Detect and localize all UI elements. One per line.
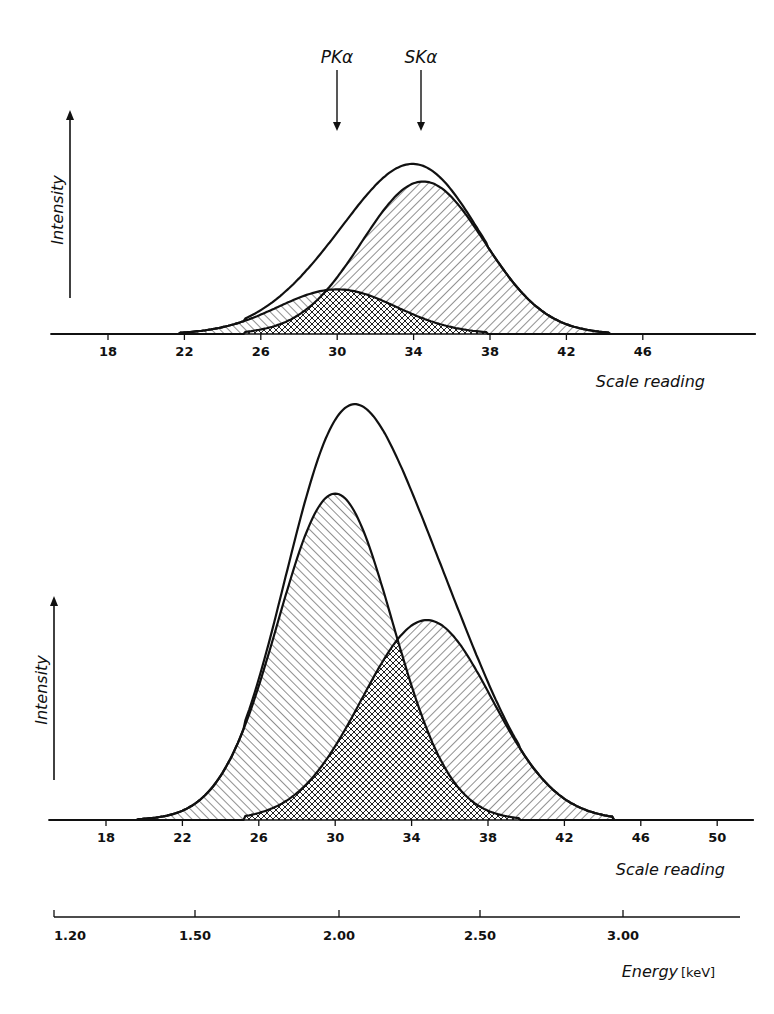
top-y-label: Intensity (48, 175, 67, 245)
tick-label: 26 (250, 830, 268, 845)
tick-label: 2.00 (323, 928, 355, 943)
tick-label: 26 (252, 344, 270, 359)
arrow-up-icon (50, 596, 58, 606)
tick-label: 18 (99, 344, 117, 359)
tick-label: 42 (557, 344, 575, 359)
top-x-ticks: 1822263034384246 (99, 334, 652, 359)
tick-label: 50 (708, 830, 726, 845)
tick-label: 1.20 (54, 928, 86, 943)
tick-label: 46 (632, 830, 650, 845)
tick-label: 30 (328, 344, 346, 359)
tick-label: 30 (326, 830, 344, 845)
tick-label: 38 (479, 830, 497, 845)
tick-label: 1.50 (179, 928, 211, 943)
bottom-chart: 182226303438424650 Intensity Scale readi… (32, 404, 754, 879)
tick-label: 46 (634, 344, 652, 359)
tick-label: 22 (173, 830, 191, 845)
energy-unit: [keV] (681, 965, 715, 980)
marker-pka: PKα (321, 47, 354, 131)
arrow-head-icon (333, 122, 341, 131)
top-x-label: Scale reading (596, 372, 705, 391)
energy-axis: 1.201.502.002.503.00 Energy [keV] (54, 910, 740, 981)
energy-label: Energy (622, 962, 679, 981)
arrow-head-icon (417, 122, 425, 131)
bottom-y-label: Intensity (32, 655, 51, 725)
tick-label: 18 (97, 830, 115, 845)
arrow-up-icon (66, 110, 74, 120)
marker-ska-label: SKα (404, 47, 437, 67)
marker-pka-label: PKα (321, 47, 354, 67)
marker-ska: SKα (404, 47, 437, 131)
tick-label: 3.00 (607, 928, 639, 943)
bottom-x-ticks: 182226303438424650 (97, 820, 726, 845)
tick-label: 22 (175, 344, 193, 359)
overlap-area (49, 641, 754, 820)
tick-label: 34 (405, 344, 423, 359)
tick-label: 42 (555, 830, 573, 845)
tick-label: 34 (403, 830, 421, 845)
top-chart: 1822263034384246 Intensity Scale reading (48, 110, 756, 391)
bottom-x-label: Scale reading (616, 860, 725, 879)
figure: PKα SKα 1822263034384246 Intensity Scale… (0, 0, 774, 1014)
tick-label: 2.50 (464, 928, 496, 943)
tick-label: 38 (481, 344, 499, 359)
